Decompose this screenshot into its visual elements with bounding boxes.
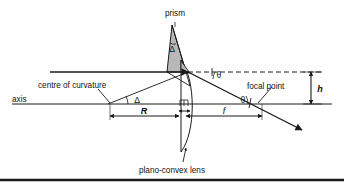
label-height-h: h	[317, 84, 323, 94]
optics-diagram: prism centre of curvature axis focal poi…	[0, 0, 344, 183]
label-focal-point: focal point	[247, 82, 285, 91]
angle-arc-curvature	[126, 96, 128, 104]
radius-construction-line	[108, 72, 188, 104]
label-centre-of-curvature: centre of curvature	[38, 81, 107, 90]
label-theta-lower: θ	[241, 95, 246, 105]
label-axis: axis	[12, 95, 27, 104]
label-prism-apex-angle: Δ	[169, 44, 175, 54]
leader-centre-of-curvature	[98, 89, 110, 103]
label-theta-upper: θ	[217, 70, 222, 80]
label-prism: prism	[165, 9, 185, 18]
lens-prism-overlap	[181, 61, 190, 73]
leader-plano-convex-lens	[183, 148, 186, 162]
label-curvature-angle: Δ	[134, 95, 140, 105]
figure-canvas: prism centre of curvature axis focal poi…	[0, 0, 344, 183]
angle-arc-theta-upper	[213, 72, 215, 79]
label-radius-R: R	[141, 106, 148, 116]
label-focal-length-f: f	[223, 106, 227, 116]
label-plano-convex-lens: plano-convex lens	[139, 166, 205, 175]
